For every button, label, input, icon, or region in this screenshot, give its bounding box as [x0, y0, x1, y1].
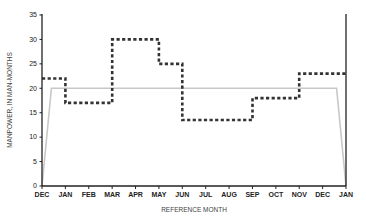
x-tick-label: SEP — [245, 191, 259, 198]
y-tick-label: 25 — [29, 60, 37, 67]
y-tick-label: 5 — [33, 158, 37, 165]
y-axis-title: MANPOWER, IN MAN-MONTHS — [6, 51, 13, 147]
x-tick-label: FEB — [82, 191, 96, 198]
x-tick-label: DEC — [315, 191, 330, 198]
x-tick-label: MAR — [104, 191, 120, 198]
series-layer — [42, 39, 346, 186]
x-tick-label: JAN — [58, 191, 72, 198]
y-tick-label: 0 — [33, 182, 37, 189]
x-tick-label: AUG — [221, 191, 237, 198]
x-tick-label: APR — [128, 191, 143, 198]
x-axis-title: REFERENCE MONTH — [161, 206, 227, 213]
y-tick-label: 10 — [29, 133, 37, 140]
manpower-chart: 05101520253035DECJANFEBMARAPRMAYJUNJULAU… — [0, 0, 366, 224]
y-tick-label: 35 — [29, 11, 37, 18]
x-tick-label: NOV — [292, 191, 308, 198]
x-tick-label: MAY — [151, 191, 166, 198]
axes: 05101520253035DECJANFEBMARAPRMAYJUNJULAU… — [29, 11, 353, 198]
y-tick-label: 30 — [29, 36, 37, 43]
x-tick-label: JUN — [175, 191, 189, 198]
x-tick-label: JAN — [339, 191, 353, 198]
dashed-step-line — [42, 39, 346, 120]
y-tick-label: 15 — [29, 109, 37, 116]
x-tick-label: DEC — [35, 191, 50, 198]
x-tick-label: OCT — [268, 191, 284, 198]
y-tick-label: 20 — [29, 85, 37, 92]
x-tick-label: JUL — [199, 191, 213, 198]
